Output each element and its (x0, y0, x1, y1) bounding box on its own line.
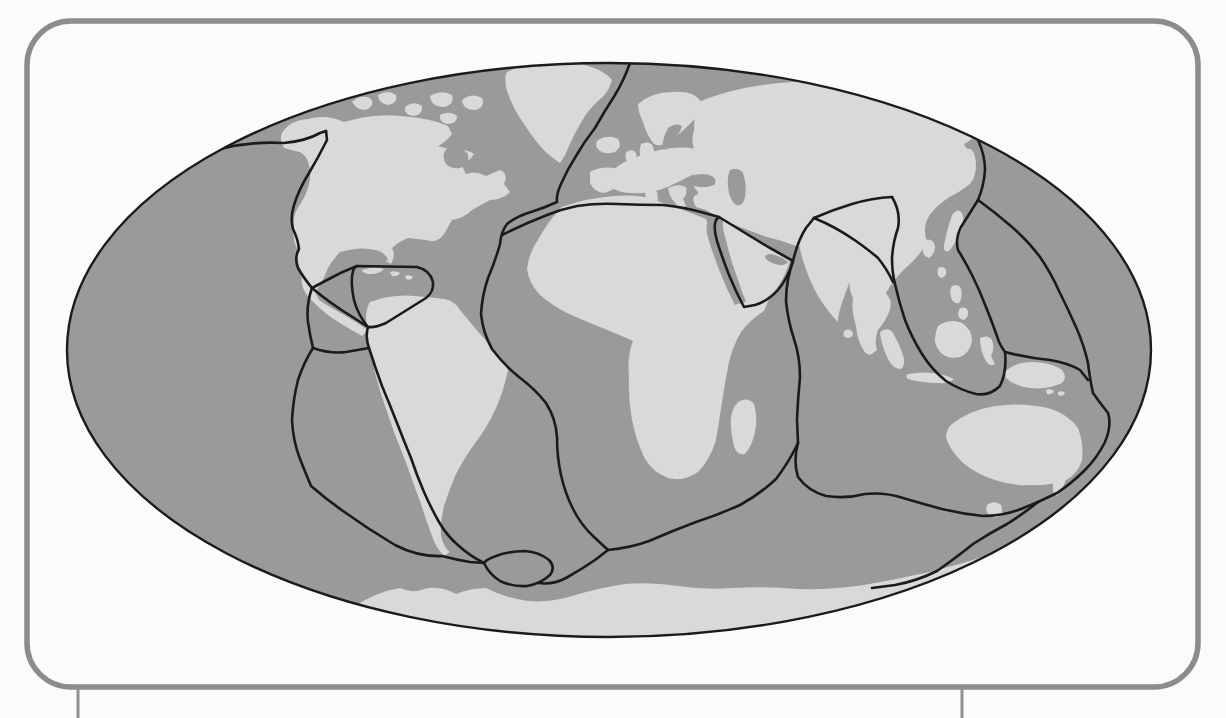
borneo (935, 321, 972, 358)
page-rule-lines (78, 687, 962, 718)
book-page (0, 0, 1226, 718)
tectonic-plate-map (0, 0, 1226, 718)
black-sea (690, 174, 715, 187)
